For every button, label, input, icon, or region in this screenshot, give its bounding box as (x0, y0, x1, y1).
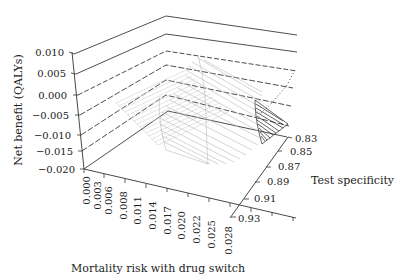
z-tick-label: 0.000 (38, 90, 67, 101)
x-tick-label: 0.022 (191, 215, 202, 244)
z-tick-label: 0.010 (35, 47, 64, 58)
x-axis-title: Mortality risk with drug switch (71, 262, 245, 275)
z-axis-title: Net benefit (QALYs) (12, 54, 25, 166)
surface-chart: 0.010 0.005 0.000 −0.005 −0.010 −0.015 −… (0, 0, 396, 280)
x-tick-label: 0.008 (118, 191, 129, 220)
x-tick-label: 0.020 (176, 211, 187, 240)
y-axis: 0.83 0.85 0.87 0.89 0.91 0.93 Test speci… (230, 133, 395, 224)
z-tick-label: −0.010 (34, 130, 71, 141)
y-tick-label: 0.93 (238, 213, 260, 224)
x-tick-label: 0.014 (147, 201, 158, 230)
z-tick-label: −0.015 (36, 146, 73, 157)
z-axis: 0.010 0.005 0.000 −0.005 −0.010 −0.015 −… (12, 47, 84, 175)
y-axis-title: Test specificity (311, 174, 395, 187)
y-tick-label: 0.87 (278, 161, 300, 172)
z-tick-label: 0.005 (37, 68, 66, 79)
z-tick-label: −0.005 (32, 110, 69, 121)
x-tick-label: 0.025 (206, 220, 217, 249)
x-tick-label: 0.003 (92, 181, 103, 210)
x-tick-label: 0.006 (103, 186, 114, 215)
x-axis: 0.000 0.003 0.006 0.008 0.011 0.014 0.01… (71, 169, 296, 275)
surface (116, 56, 288, 164)
y-tick-label: 0.83 (295, 133, 317, 144)
y-tick-label: 0.85 (290, 146, 312, 157)
z-tick-label: −0.020 (38, 164, 75, 175)
x-tick-label: 0.017 (162, 206, 173, 235)
x-tick-label: 0.028 (223, 226, 234, 255)
x-tick-label: 0.000 (81, 176, 92, 205)
y-tick-label: 0.89 (267, 176, 289, 187)
y-tick-label: 0.91 (254, 193, 276, 204)
x-tick-label: 0.011 (132, 196, 143, 225)
